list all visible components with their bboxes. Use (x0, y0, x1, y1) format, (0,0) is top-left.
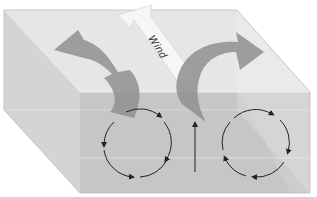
ocean-circulation-block-diagram: Wind (0, 0, 317, 197)
